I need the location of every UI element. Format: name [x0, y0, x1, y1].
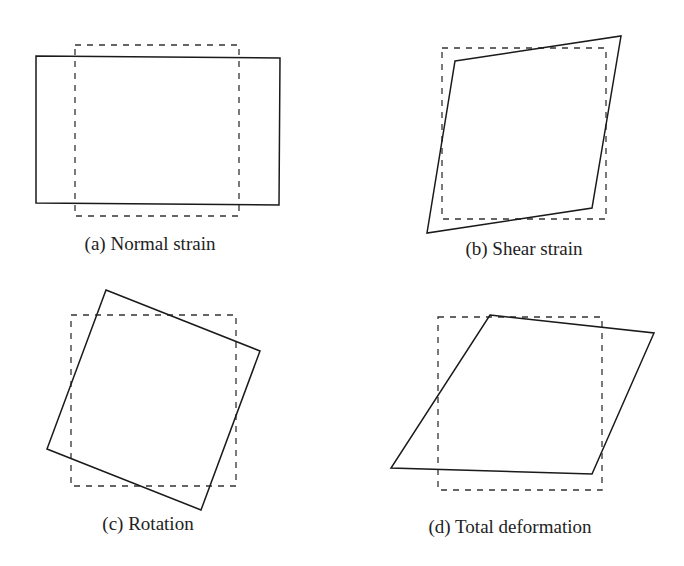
panel-b-shear-strain: (b) Shear strain: [427, 36, 621, 260]
strain-figure: (a) Normal strain (b) Shear strain (c) R…: [0, 0, 684, 566]
panel-d-total-deformation: (d) Total deformation: [391, 315, 654, 538]
panel-a-normal-strain: (a) Normal strain: [36, 45, 280, 255]
caption-c: (c) Rotation: [102, 513, 194, 535]
reference-rect-a: [75, 45, 239, 216]
deformed-shape-c: [47, 290, 260, 510]
caption-b: (b) Shear strain: [465, 238, 583, 260]
reference-rect-d: [438, 317, 602, 490]
deformed-shape-b: [427, 36, 621, 233]
caption-a: (a) Normal strain: [85, 233, 216, 255]
caption-d: (d) Total deformation: [429, 516, 592, 538]
deformed-shape-a: [36, 56, 280, 205]
panel-c-rotation: (c) Rotation: [47, 290, 260, 535]
deformed-shape-d: [391, 315, 654, 474]
reference-rect-b: [442, 48, 606, 219]
reference-rect-c: [71, 315, 236, 486]
